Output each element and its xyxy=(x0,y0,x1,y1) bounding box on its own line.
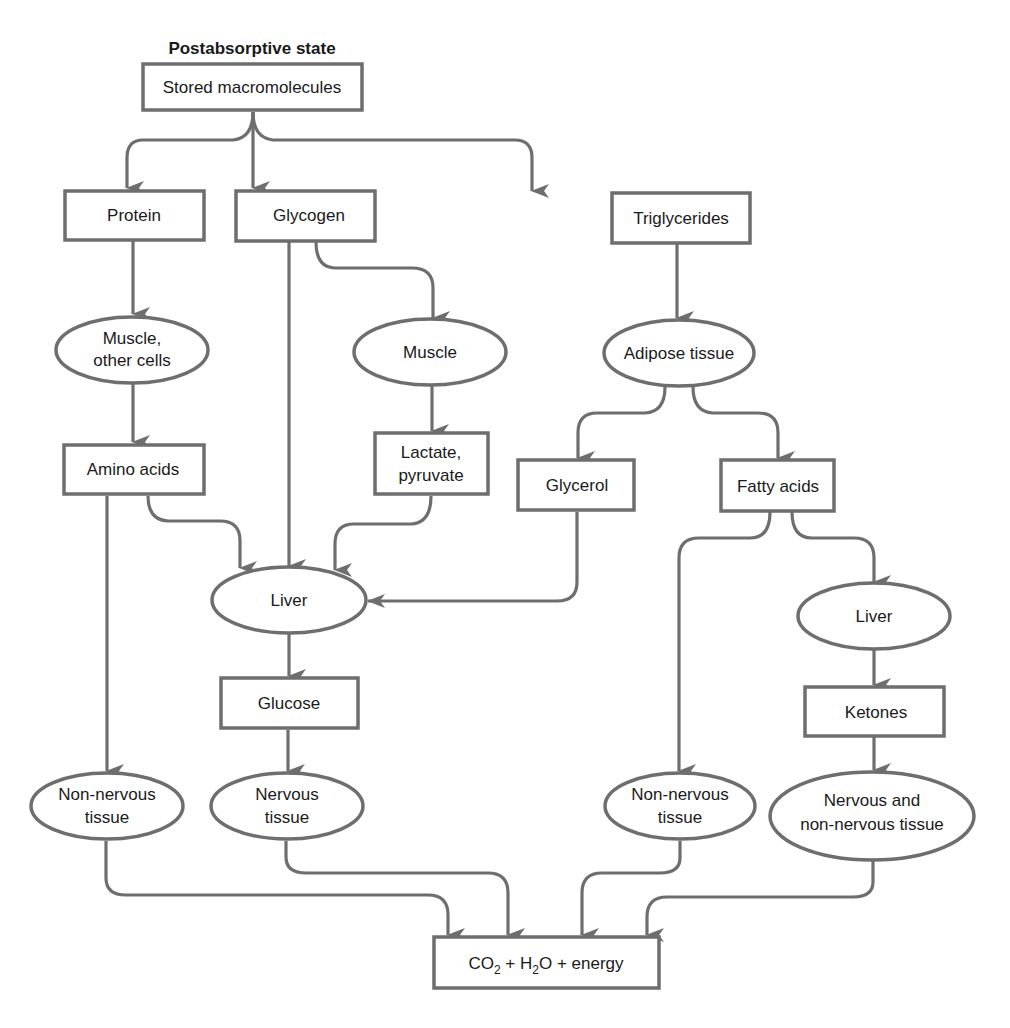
label-glycerol: Glycerol xyxy=(546,476,608,495)
edge-lactate-to-liver xyxy=(335,496,431,570)
edge-stored-to-triglycerides xyxy=(253,112,532,191)
node-ketones: Ketones xyxy=(805,687,944,736)
edge-adipose-to-glycerol xyxy=(578,387,665,458)
label-liver-right: Liver xyxy=(856,607,893,626)
label-adipose-tissue: Adipose tissue xyxy=(624,344,735,363)
label-liver-left: Liver xyxy=(271,591,308,610)
node-muscle-other-cells: Muscle, other cells xyxy=(56,317,208,383)
label-nervous-line1: Nervous xyxy=(255,785,318,804)
node-nonnervous-tissue-right: Non-nervous tissue xyxy=(605,773,755,839)
node-triglycerides: Triglycerides xyxy=(612,193,750,243)
node-fatty-acids: Fatty acids xyxy=(721,460,834,511)
label-fatty-acids: Fatty acids xyxy=(737,477,819,496)
label-muscle-other-cells-line2: other cells xyxy=(93,351,170,370)
label-glycogen: Glycogen xyxy=(273,206,345,225)
node-liver-right: Liver xyxy=(798,583,950,649)
label-lactate-line2: pyruvate xyxy=(398,466,463,485)
node-liver-left: Liver xyxy=(212,567,366,633)
edge-nonnervous-right-to-output xyxy=(582,841,680,935)
label-muscle: Muscle xyxy=(403,343,457,362)
node-stored-macromolecules: Stored macromolecules xyxy=(143,64,362,110)
label-nonnervous-left-line2: tissue xyxy=(85,808,129,827)
node-muscle: Muscle xyxy=(354,319,506,385)
label-nonnervous-left-line1: Non-nervous xyxy=(58,785,155,804)
label-nervous-and-nonnervous-line2: non-nervous tissue xyxy=(800,815,944,834)
node-glucose: Glucose xyxy=(221,678,358,728)
label-lactate-line1: Lactate, xyxy=(401,443,462,462)
label-protein: Protein xyxy=(107,206,161,225)
node-adipose-tissue: Adipose tissue xyxy=(604,320,754,386)
edge-adipose-to-fatty-acids xyxy=(693,387,778,458)
label-stored-macromolecules: Stored macromolecules xyxy=(163,78,342,97)
diagram-title: Postabsorptive state xyxy=(168,39,335,58)
edge-stored-to-protein xyxy=(127,112,253,188)
node-lactate-pyruvate: Lactate, pyruvate xyxy=(375,433,488,494)
edge-glycogen-to-muscle xyxy=(316,242,433,318)
label-amino-acids: Amino acids xyxy=(87,460,180,479)
label-nervous-line2: tissue xyxy=(265,808,309,827)
label-nonnervous-right-line1: Non-nervous xyxy=(631,785,728,804)
node-output-co2-h2o-energy: CO2 + H2O + energy xyxy=(434,937,659,988)
edge-fatty-acids-to-nonnervous-right xyxy=(679,512,770,771)
edge-amino-acids-to-liver xyxy=(148,496,240,568)
node-amino-acids: Amino acids xyxy=(64,445,204,494)
label-nonnervous-right-line2: tissue xyxy=(658,808,702,827)
postabsorptive-state-diagram: Postabsorptive state xyxy=(0,0,1010,1028)
edge-nervous-to-output xyxy=(286,841,508,935)
node-nervous-tissue: Nervous tissue xyxy=(211,773,363,839)
label-muscle-other-cells-line1: Muscle, xyxy=(103,329,162,348)
node-protein: Protein xyxy=(65,191,204,240)
edge-fatty-acids-to-liver-right xyxy=(792,512,874,582)
node-nervous-and-nonnervous-tissue: Nervous and non-nervous tissue xyxy=(770,772,974,860)
node-nonnervous-tissue-left: Non-nervous tissue xyxy=(31,773,183,839)
edge-nonnervous-left-to-output xyxy=(106,841,448,935)
label-ketones: Ketones xyxy=(845,703,907,722)
edge-nervous-and-nonnervous-to-output xyxy=(647,861,873,935)
node-glycerol: Glycerol xyxy=(518,460,634,510)
node-glycogen: Glycogen xyxy=(236,191,375,241)
label-nervous-and-nonnervous-line1: Nervous and xyxy=(824,791,920,810)
label-triglycerides: Triglycerides xyxy=(633,209,729,228)
label-glucose: Glucose xyxy=(258,694,320,713)
